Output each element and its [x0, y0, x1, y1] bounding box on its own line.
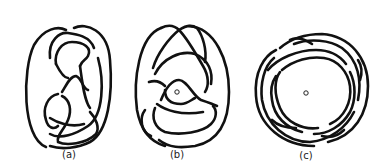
panel-label-c: (c): [291, 150, 321, 161]
panel-label-a: (a): [54, 149, 84, 160]
panel-label-b: (b): [162, 149, 192, 160]
panel-b: (b): [125, 0, 255, 166]
knot-diagram-a: [0, 0, 128, 166]
knot-diagram-c: [250, 0, 384, 166]
center-point-c: [304, 91, 308, 95]
center-point-b: [175, 90, 179, 94]
knot-diagram-b: [125, 0, 255, 166]
panel-c: (c): [250, 0, 384, 166]
panel-a: (a): [0, 0, 128, 166]
